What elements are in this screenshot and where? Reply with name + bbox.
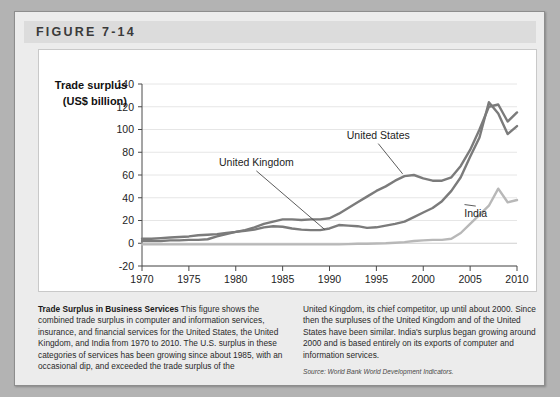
caption-right-text: United Kingdom, its chief competitor, up… bbox=[303, 304, 536, 360]
figure-number-label: FIGURE 7-14 bbox=[36, 25, 136, 39]
y-tick-label: 20 bbox=[122, 214, 134, 226]
y-tick-label: 60 bbox=[122, 169, 134, 181]
x-tick-label: 1980 bbox=[224, 273, 248, 285]
y-axis-title: Trade surplus (US$ billion) bbox=[55, 79, 127, 107]
figure-caption: Trade Surplus in Business Services This … bbox=[38, 304, 543, 384]
x-tick-label: 2010 bbox=[505, 273, 529, 285]
y-tick-label: 80 bbox=[122, 146, 134, 158]
series-label-india: India bbox=[464, 207, 487, 219]
x-tick-label: 1990 bbox=[318, 273, 342, 285]
leader-line-india bbox=[465, 205, 476, 207]
y-axis-title-line1: Trade surplus bbox=[55, 79, 127, 91]
caption-right-column: United Kingdom, its chief competitor, up… bbox=[303, 304, 543, 376]
caption-left-text: This figure shows the combined trade sur… bbox=[38, 304, 282, 371]
x-tick-label: 2005 bbox=[458, 273, 482, 285]
y-tick-label: 0 bbox=[128, 237, 134, 249]
x-tick-label: 2000 bbox=[412, 273, 436, 285]
y-axis-title-line2: (US$ billion) bbox=[63, 95, 128, 107]
series-label-united-states: United States bbox=[347, 129, 410, 141]
leader-line-united-states bbox=[378, 144, 402, 174]
chart-panel: -20020406080100120140 197019751980198519… bbox=[38, 49, 537, 292]
series-lines-group bbox=[142, 102, 517, 244]
y-tick-label: 40 bbox=[122, 192, 134, 204]
x-axis: 197019751980198519901995200020052010 bbox=[130, 266, 529, 285]
figure-card: FIGURE 7-14 -20020406080100120140 197019… bbox=[14, 11, 545, 386]
caption-source-line: Source: World Bank World Development Ind… bbox=[303, 367, 543, 376]
figure-header-bar: FIGURE 7-14 bbox=[24, 21, 536, 43]
x-tick-label: 1970 bbox=[130, 273, 154, 285]
x-tick-label: 1995 bbox=[365, 273, 389, 285]
trade-surplus-line-chart: -20020406080100120140 197019751980198519… bbox=[39, 50, 536, 291]
y-tick-label: 100 bbox=[116, 123, 134, 135]
caption-title: Trade Surplus in Business Services bbox=[38, 304, 179, 314]
x-tick-label: 1975 bbox=[177, 273, 201, 285]
series-label-united-kingdom: United Kingdom bbox=[219, 156, 294, 168]
series-line-united-states bbox=[142, 104, 517, 238]
caption-left-column: Trade Surplus in Business Services This … bbox=[38, 304, 283, 372]
x-tick-label: 1985 bbox=[271, 273, 295, 285]
y-tick-label: -20 bbox=[119, 260, 134, 272]
